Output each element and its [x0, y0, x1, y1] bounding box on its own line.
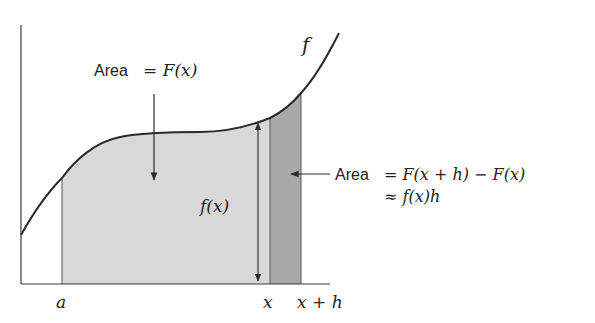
curve-label-f: f: [300, 33, 313, 57]
strip-area-line1: = F(x + h) − F(x): [384, 165, 525, 184]
tick-label-x: x: [263, 292, 273, 312]
height-label-fx: f(x): [198, 196, 229, 216]
strip-area-word: Area: [335, 166, 369, 183]
tick-label-xh: x + h: [297, 292, 343, 312]
area-function-diagram: f Area = F(x) f(x) Area = F(x + h) − F(x…: [0, 0, 595, 323]
area-region-a-to-x: [62, 118, 270, 284]
tick-label-a: a: [56, 292, 66, 312]
strip-area-line2: ≈ f(x)h: [384, 187, 440, 206]
area-label-equation: = F(x): [143, 60, 197, 80]
area-label-word: Area: [94, 62, 128, 79]
strip-region-x-to-xh: [270, 93, 301, 284]
